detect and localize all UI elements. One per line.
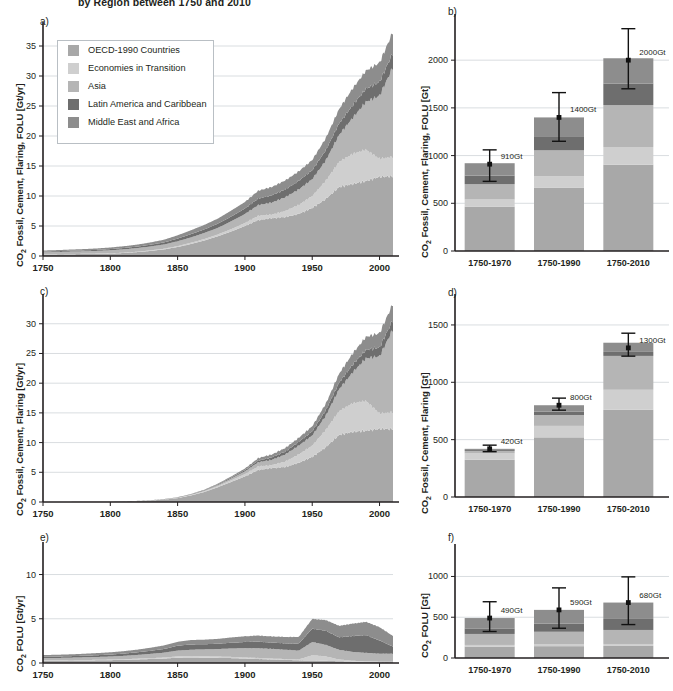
panel-b-ylabel: CO2 Fossil, Cement, Flaring, FOLU [Gt] [419,86,432,258]
bar-segment [465,207,515,251]
y-tick-label: 20 [26,378,36,388]
panel-f-ylabel: CO2 FOLU [Gt] [419,593,432,658]
bar-segment [465,184,515,199]
bar-segment [603,105,653,147]
category-label: 1750-2010 [607,258,650,268]
panel-f-plot: 490Gt590Gt680Gt050010001750-19701750-199… [405,532,673,691]
x-tick-label: 1800 [100,669,121,680]
panel-b-letter: b) [448,6,457,17]
category-label: 1750-1970 [468,258,511,268]
bar-segment [603,390,653,410]
bar-segment [534,176,584,187]
panel-d-ylabel: CO2 Fossil, Cement, Flaring [Gt] [419,372,432,514]
panel-c-letter: c) [40,286,48,297]
bar-segment [534,646,584,658]
y-tick-label: 30 [26,71,36,81]
bar-total-label: 1400Gt [570,105,597,114]
y-tick-label: 0 [31,497,36,507]
panel-c: c) CO2 Fossil, Cement, Flaring [Gt/yr] 0… [0,286,405,532]
y-tick-label: 0 [31,251,36,261]
y-tick-label: 2000 [428,55,448,65]
bar-segment [534,415,584,426]
panel-b-plot: 910Gt1400Gt2000Gt05001000150020001750-19… [405,0,673,286]
legend-item-label: Latin America and Caribbean [88,99,207,109]
legend-swatch-icon [68,117,79,128]
bar-segment [534,632,584,645]
legend-item-label: OECD-1990 Countries [88,45,180,55]
bar-segment [534,437,584,497]
bar-segment [534,188,584,251]
bar-segment [603,147,653,165]
x-tick-label: 1750 [32,508,53,519]
y-tick-label: 0 [31,658,36,668]
panel-e-plot: 0510175018001850190019502000 [0,532,405,691]
bar-total-label: 2000Gt [639,48,666,57]
x-tick-label: 1900 [234,669,255,680]
panel-e-letter: e) [40,532,49,543]
bar-total-label: 680Gt [639,591,662,600]
x-tick-label: 2000 [369,669,390,680]
x-tick-label: 2000 [369,262,390,273]
panel-a-letter: a) [40,16,49,27]
bar-segment [465,634,515,645]
figure-title: by Region between 1750 and 2010 [78,0,251,8]
x-tick-label: 1750 [32,669,53,680]
bar-segment [603,644,653,646]
panel-d: d) CO2 Fossil, Cement, Flaring [Gt] 420G… [405,286,673,532]
category-label: 1750-1970 [468,665,511,675]
x-tick-label: 1950 [302,669,323,680]
bar-total-label: 1300Gt [639,336,666,345]
area-series-0 [43,427,393,502]
bar-total-label: 910Gt [501,152,524,161]
bar-segment [603,356,653,390]
legend-swatch-icon [68,45,79,56]
y-tick-label: 5 [31,221,36,231]
bar-segment [465,647,515,658]
y-tick-label: 500 [433,612,448,622]
bar-segment [465,645,515,647]
x-tick-label: 1800 [100,262,121,273]
panel-d-plot: 420Gt800Gt1300Gt0500100015001750-1970175… [405,286,673,532]
y-tick-label: 5 [31,467,36,477]
x-tick-label: 2000 [369,508,390,519]
legend-item: Middle East and Africa [58,113,213,131]
legend-item-label: Economies in Transition [88,63,186,73]
bar-segment [534,644,584,646]
legend-item: OECD-1990 Countries [58,41,213,59]
y-tick-label: 15 [26,408,36,418]
y-tick-label: 1500 [428,320,448,330]
panel-e: e) CO2 FOLU [Gt/yr] 05101750180018501900… [0,532,405,691]
panel-e-ylabel: CO2 FOLU [Gt/yr] [14,596,27,672]
y-tick-label: 35 [26,41,36,51]
category-label: 1750-2010 [607,665,650,675]
y-tick-label: 10 [26,191,36,201]
bar-segment [534,426,584,437]
bar-segment [534,412,584,415]
legend-swatch-icon [68,63,79,74]
legend-item: Economies in Transition [58,59,213,77]
y-tick-label: 25 [26,348,36,358]
bar-segment [603,165,653,251]
bar-total-label: 490Gt [501,606,524,615]
x-tick-label: 1850 [167,262,188,273]
panel-f: f) CO2 FOLU [Gt] 490Gt590Gt680Gt05001000… [405,532,673,691]
legend-item: Latin America and Caribbean [58,95,213,113]
bar-segment [603,410,653,497]
category-label: 1750-1990 [537,504,580,514]
x-tick-label: 1900 [234,262,255,273]
y-tick-label: 1000 [428,571,448,581]
category-label: 1750-1990 [537,258,580,268]
bar-total-label: 420Gt [501,437,524,446]
bar-segment [465,453,515,459]
y-tick-label: 0 [443,246,448,256]
category-label: 1750-1990 [537,665,580,675]
legend-swatch-icon [68,99,79,110]
bar-segment [603,630,653,644]
x-tick-label: 1850 [167,669,188,680]
bar-total-label: 590Gt [570,598,593,607]
y-tick-label: 5 [31,614,36,624]
panel-c-plot: 051015202530175018001850190019502000 [0,286,405,532]
panel-c-ylabel: CO2 Fossil, Cement, Flaring [Gt/yr] [14,363,27,516]
bar-total-label: 800Gt [570,393,593,402]
y-tick-label: 25 [26,101,36,111]
